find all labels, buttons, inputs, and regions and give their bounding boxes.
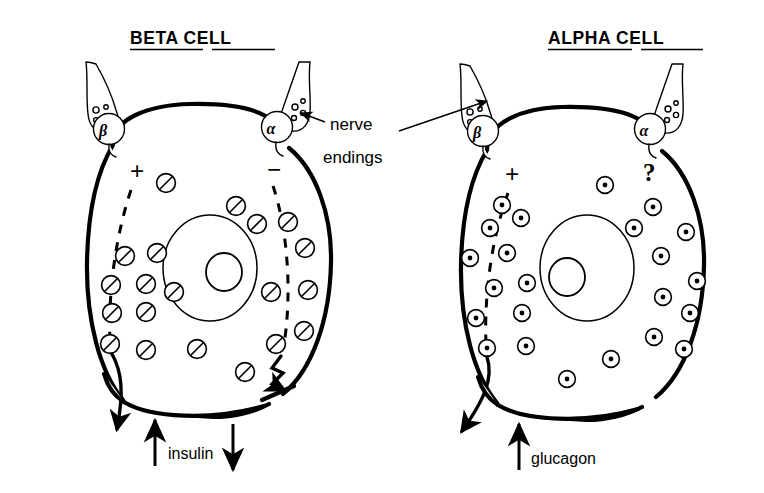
granule (279, 213, 298, 232)
granule (645, 199, 662, 216)
glucagon-label: glucagon (531, 450, 596, 467)
granule (689, 273, 706, 290)
insulin-label: insulin (168, 445, 213, 462)
granule (102, 276, 121, 295)
nerve-endings-annotation: nerve endings (301, 101, 487, 167)
granule (296, 239, 315, 258)
granule (188, 340, 207, 359)
alpha-cell-plus-sign: + (505, 161, 519, 188)
alpha-cell-beta-receptor-label: β (472, 124, 482, 142)
granule (513, 210, 530, 227)
alpha-cell-alpha-receptor-label: α (640, 122, 650, 139)
granule (137, 341, 156, 360)
granule (518, 338, 535, 355)
granule (603, 351, 620, 368)
granule (165, 283, 184, 302)
beta-cell-hormone-group: insulin (155, 420, 233, 470)
granule (101, 335, 120, 354)
granule (299, 281, 318, 300)
granule (519, 275, 536, 292)
granule (653, 248, 670, 265)
granule (494, 197, 511, 214)
beta-cell-nucleus (163, 215, 257, 321)
granule (678, 224, 695, 241)
granule (462, 250, 479, 267)
granule (137, 275, 156, 294)
granule (597, 177, 614, 194)
granule (514, 305, 531, 322)
granule (468, 310, 485, 327)
granule (682, 305, 699, 322)
alpha-cell-panel: ALPHA CELL β α (460, 28, 705, 470)
granule (248, 215, 267, 234)
beta-cell-alpha-receptor-label: α (267, 120, 277, 137)
granule (227, 197, 246, 216)
granule (116, 247, 135, 266)
beta-cell-beta-receptor-label: β (98, 122, 108, 140)
alpha-cell-nucleus (540, 215, 634, 321)
granule (295, 322, 314, 341)
granule (486, 280, 503, 297)
granule (103, 304, 122, 323)
granule (676, 341, 693, 358)
granule (157, 174, 176, 193)
granule (262, 283, 281, 302)
nerve-endings-line-1: nerve (330, 115, 373, 134)
figure-root: BETA CELL β (0, 0, 764, 493)
granule (499, 245, 516, 262)
granule (267, 335, 286, 354)
alpha-cell-title: ALPHA CELL (548, 28, 664, 48)
granule (236, 363, 255, 382)
alpha-cell-question-sign: ? (643, 159, 656, 186)
beta-cell-beta-receptor: β (94, 114, 125, 158)
beta-cell-title: BETA CELL (130, 28, 232, 48)
alpha-cell-hormone-group: glucagon (519, 424, 596, 470)
beta-cell-panel: BETA CELL β (86, 28, 331, 470)
nerve-endings-line-2: endings (323, 148, 383, 167)
beta-cell-plus-sign: + (130, 158, 144, 185)
alpha-cell-beta-receptor: β (468, 116, 499, 160)
granule (148, 244, 167, 263)
granule (137, 303, 156, 322)
cell-diagram-canvas: BETA CELL β (0, 0, 764, 493)
granule (646, 329, 663, 346)
granule (479, 340, 496, 357)
beta-cell-minus-sign: − (267, 156, 281, 183)
granule (482, 220, 499, 237)
granule (559, 371, 576, 388)
granule (655, 289, 672, 306)
granule (626, 220, 643, 237)
